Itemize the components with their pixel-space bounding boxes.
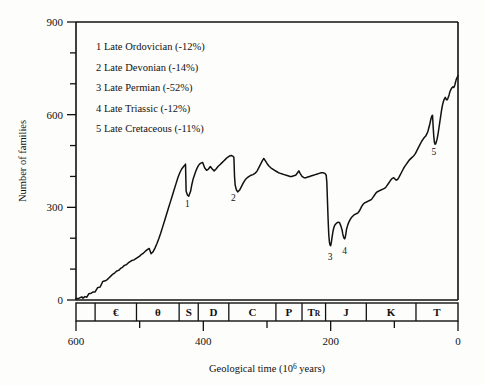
legend-entry-5: 5 Late Cretaceous (-11%): [96, 123, 204, 135]
legend-entry-4: 4 Late Triassic (-12%): [96, 103, 191, 115]
extinction-label-5: 5: [431, 147, 436, 157]
y-tick-label-300: 300: [47, 201, 64, 213]
extinction-label-4: 4: [342, 246, 347, 256]
period-label-jurassic: J: [343, 306, 349, 318]
extinction-label-1: 1: [185, 199, 190, 209]
legend-entry-1: 1 Late Ordovician (-12%): [96, 41, 205, 53]
period-label-carboniferous: C: [248, 306, 256, 318]
extinction-label-2: 2: [231, 193, 236, 203]
x-tick-label-200: 200: [322, 335, 339, 347]
period-label-tertiary: T: [433, 306, 441, 318]
x-axis-title: Geological time (106 years): [209, 362, 326, 376]
x-tick-label-600: 600: [68, 335, 85, 347]
chart-svg: 0300600900 Number of families 1 Late Ord…: [0, 0, 485, 385]
period-label-cretaceous: K: [387, 306, 396, 318]
legend-entry-3: 3 Late Permian (-52%): [96, 82, 193, 94]
period-label-devonian: D: [210, 306, 218, 318]
y-axis-title: Number of families: [17, 120, 28, 202]
y-tick-label-900: 900: [47, 16, 64, 28]
y-tick-label-0: 0: [58, 294, 64, 306]
period-label-silurian: S: [186, 306, 192, 318]
period-label-cambrian: €: [113, 306, 119, 318]
period-label-ordovician: θ: [155, 306, 161, 318]
legend-entry-2: 2 Late Devonian (-14%): [96, 62, 199, 74]
x-tick-label-0: 0: [455, 335, 461, 347]
diversity-chart-figure: 0300600900 Number of families 1 Late Ord…: [0, 0, 485, 385]
extinction-label-3: 3: [328, 252, 333, 262]
chart-background: [0, 0, 485, 385]
period-label-permian: P: [286, 306, 293, 318]
y-tick-label-600: 600: [47, 109, 64, 121]
x-tick-label-400: 400: [195, 335, 212, 347]
